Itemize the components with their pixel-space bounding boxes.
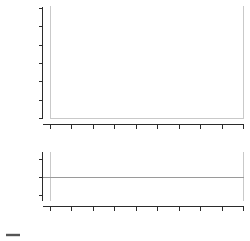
- figure-legend: [0, 0, 20, 235]
- bottom-panel-x-ticks: [51, 207, 244, 211]
- bottom-panel-residual-vs-police: [39, 152, 245, 211]
- top-panel-x-ticks: [51, 125, 244, 129]
- figure-svg: [0, 0, 250, 241]
- bottom-panel-y-ticks: [39, 160, 43, 196]
- top-panel-y-ticks: [39, 9, 43, 119]
- statistical-figure: [0, 0, 250, 241]
- top-panel-crime-vs-police: [0, 0, 244, 129]
